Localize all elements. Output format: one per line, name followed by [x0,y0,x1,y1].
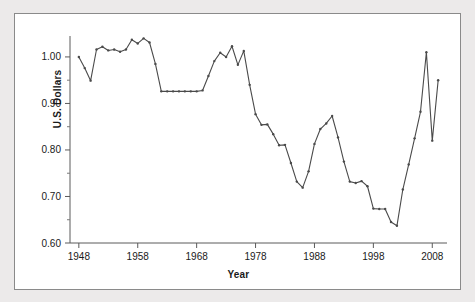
x-tick-label: 1968 [186,251,209,262]
data-point [119,51,121,53]
data-point [413,137,415,139]
data-point [343,160,345,162]
data-point [402,188,404,190]
x-tick-label: 1948 [68,251,91,262]
chart-figure: 0.600.700.800.901.00 1948195819681978198… [14,13,461,290]
data-point [331,115,333,117]
data-point [207,75,209,77]
data-point [243,50,245,52]
data-point [349,180,351,182]
data-point [195,90,197,92]
series-line-canadian-dollar [79,38,438,225]
data-point [101,46,103,48]
x-axis-label-container: Year [15,264,462,282]
data-point [113,48,115,50]
data-point [278,144,280,146]
data-point [225,56,227,58]
data-point [408,163,410,165]
data-point [125,48,127,50]
y-axis-label: U.S. Dollars [52,70,63,129]
data-point [78,56,80,58]
y-axis-label-container: U.S. Dollars [47,54,61,144]
data-point [231,45,233,47]
x-tick-label: 1978 [244,251,267,262]
data-point [131,39,133,41]
data-point [390,221,392,223]
y-axis-ticks [65,57,70,243]
data-point [419,111,421,113]
y-tick-label: 0.70 [42,191,62,202]
data-point [290,162,292,164]
data-point [372,207,374,209]
data-point [160,90,162,92]
data-point [384,208,386,210]
data-point [319,128,321,130]
data-point [248,84,250,86]
data-point [148,41,150,43]
data-point [431,139,433,141]
x-axis-tick-labels: 1948195819681978198819982008 [68,251,444,262]
data-point [137,42,139,44]
x-axis-ticks [79,243,432,248]
data-point [190,90,192,92]
data-point [425,51,427,53]
data-point [178,90,180,92]
data-point [378,208,380,210]
data-point [172,90,174,92]
data-point [355,182,357,184]
x-tick-label: 1998 [362,251,385,262]
x-tick-label: 1988 [303,251,326,262]
data-point [307,170,309,172]
data-point [201,89,203,91]
data-point [219,52,221,54]
line-chart: 0.600.700.800.901.00 1948195819681978198… [15,14,462,291]
x-tick-label: 2008 [421,251,444,262]
data-point [284,144,286,146]
data-point [366,185,368,187]
data-point [296,180,298,182]
x-axis-label: Year [228,269,250,280]
data-point [260,124,262,126]
data-point [107,49,109,51]
x-tick-label: 1958 [127,251,150,262]
data-point [237,64,239,66]
y-tick-label: 0.60 [42,238,62,249]
data-point [313,143,315,145]
data-point [360,180,362,182]
data-point [254,113,256,115]
data-point [84,67,86,69]
data-point [272,133,274,135]
data-point [325,122,327,124]
data-point [184,90,186,92]
data-point [437,79,439,81]
data-point [166,90,168,92]
data-point [142,37,144,39]
data-point [213,60,215,62]
y-tick-label: 0.80 [42,144,62,155]
data-point [95,48,97,50]
data-point [89,79,91,81]
data-point [337,136,339,138]
series-markers [78,37,440,227]
data-point [266,123,268,125]
data-point [301,186,303,188]
data-point [154,63,156,65]
data-point [396,225,398,227]
